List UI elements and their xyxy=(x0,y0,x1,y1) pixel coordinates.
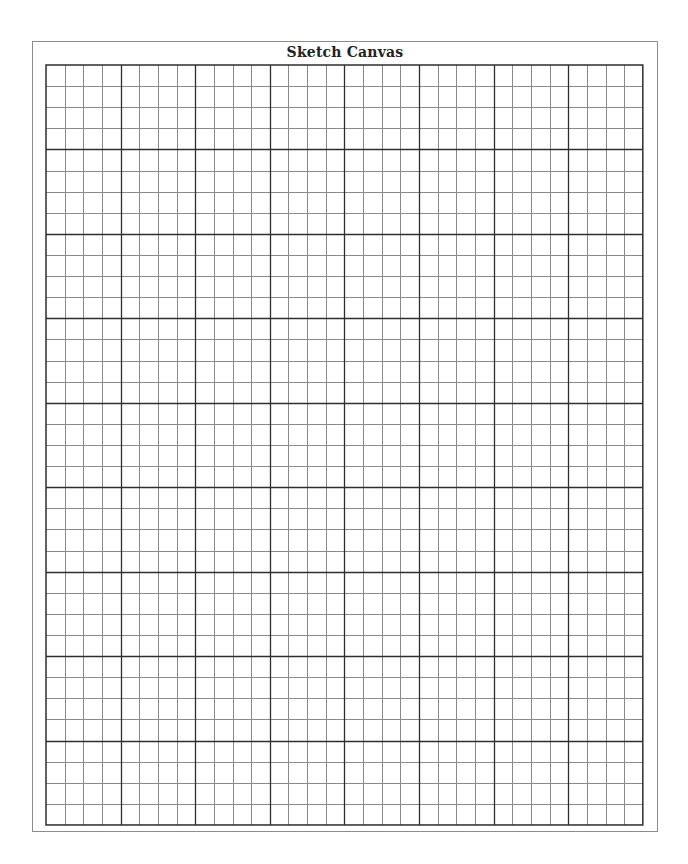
graph-paper-grid[interactable] xyxy=(45,64,644,826)
canvas-title: Sketch Canvas xyxy=(33,43,657,61)
